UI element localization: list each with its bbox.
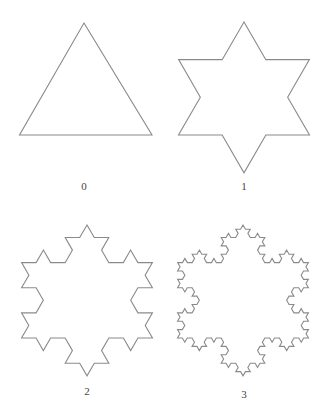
koch-drawing bbox=[0, 0, 330, 417]
koch-snowflake-iteration-3 bbox=[178, 225, 309, 376]
koch-snowflake-iteration-1 bbox=[179, 22, 310, 173]
koch-snowflake-iteration-0 bbox=[20, 23, 153, 135]
iteration-label-2: 2 bbox=[84, 386, 90, 397]
iteration-label-1: 1 bbox=[241, 181, 247, 192]
iteration-label-0: 0 bbox=[81, 181, 87, 192]
koch-figure: 0 1 2 3 bbox=[0, 0, 330, 417]
koch-snowflake-iteration-2 bbox=[22, 225, 153, 376]
iteration-label-3: 3 bbox=[241, 389, 247, 400]
